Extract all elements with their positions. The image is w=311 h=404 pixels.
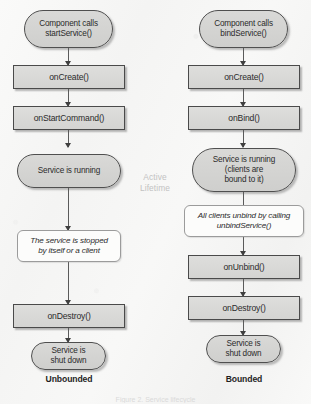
note-label: The service is stopped by itself or a cl… — [30, 236, 108, 255]
node-label: Component calls startService() — [39, 19, 98, 38]
node-label: onDestroy() — [47, 311, 90, 321]
node-service-running-unbounded[interactable]: Service is running — [17, 154, 121, 188]
connector-left-5 — [68, 262, 69, 304]
node-on-destroy-unbounded[interactable]: onDestroy() — [13, 304, 125, 328]
active-lifetime-line2: Lifetime — [129, 183, 181, 194]
node-on-bind[interactable]: onBind() — [188, 106, 300, 130]
active-lifetime-label: Active Lifetime — [129, 172, 181, 194]
node-on-create-unbounded[interactable]: onCreate() — [13, 65, 125, 89]
connector-left-4 — [68, 188, 69, 230]
node-on-unbind[interactable]: onUnbind() — [188, 255, 300, 279]
node-label: Service is running (clients are bound to… — [213, 155, 275, 184]
node-bind-service[interactable]: Component calls bindService() — [199, 10, 288, 48]
node-label: onUnbind() — [223, 262, 264, 272]
column-label-bounded: Bounded — [188, 374, 300, 384]
node-label: Component calls bindService() — [214, 19, 273, 38]
node-on-destroy-bounded[interactable]: onDestroy() — [188, 296, 300, 320]
node-label: onStartCommand() — [34, 113, 105, 123]
figure-caption: Figure 2. Service lifecycle — [0, 396, 311, 403]
node-label: onCreate() — [49, 72, 89, 82]
node-on-start-command[interactable]: onStartCommand() — [13, 106, 125, 130]
node-start-service[interactable]: Component calls startService() — [24, 10, 113, 48]
node-label: Service is shut down — [226, 339, 262, 358]
node-label: Service is running — [38, 166, 100, 176]
column-label-unbounded: Unbounded — [13, 374, 125, 384]
active-lifetime-line1: Active — [129, 172, 181, 183]
node-label: onBind() — [228, 113, 259, 123]
node-service-shut-down-bounded[interactable]: Service is shut down — [206, 335, 281, 363]
arrow-left-3 — [65, 143, 71, 148]
note-label: All clients unbind by calling unbindServ… — [198, 211, 290, 230]
node-service-shut-down-unbounded[interactable]: Service is shut down — [31, 342, 106, 370]
node-label: onCreate() — [224, 72, 264, 82]
diagram-canvas: Component calls startService() onCreate(… — [0, 0, 311, 404]
node-service-running-bounded[interactable]: Service is running (clients are bound to… — [192, 148, 296, 192]
node-label: onDestroy() — [222, 303, 265, 313]
node-label: Service is shut down — [51, 346, 87, 365]
connector-right-4 — [243, 192, 244, 205]
node-on-create-bounded[interactable]: onCreate() — [188, 65, 300, 89]
note-service-stopped[interactable]: The service is stopped by itself or a cl… — [17, 230, 121, 262]
note-clients-unbind[interactable]: All clients unbind by calling unbindServ… — [184, 205, 304, 237]
